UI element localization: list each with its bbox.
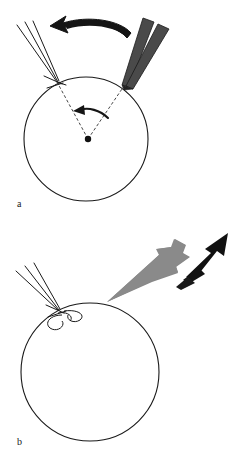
gray-ejecta-plume (107, 239, 190, 302)
rotation-arrow-small (73, 105, 108, 118)
thick-beam-right (122, 18, 169, 90)
panel-a (0, 0, 238, 225)
figure-root: a b (0, 0, 238, 464)
panel-b (0, 225, 238, 464)
thin-beam-left (16, 263, 66, 317)
sphere-center-dot (85, 136, 91, 142)
panel-label-b: b (17, 437, 22, 447)
thin-beam-left (17, 21, 66, 88)
dashed-radius-lines (57, 82, 124, 139)
rotation-arrow-large (50, 16, 131, 38)
ejecta-direction-arrow (176, 233, 228, 290)
circle-b (21, 303, 159, 441)
panel-label-a: a (17, 199, 21, 209)
